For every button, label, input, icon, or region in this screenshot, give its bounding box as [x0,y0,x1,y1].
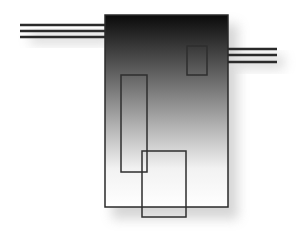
component-diagram [0,0,298,237]
main-body [105,15,228,207]
